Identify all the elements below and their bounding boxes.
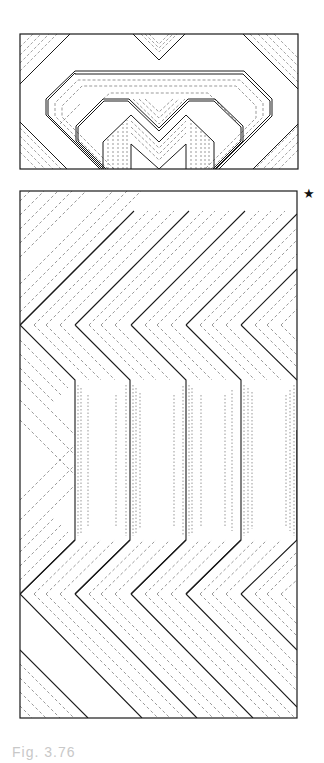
figure-caption: Fig. 3.76 (12, 744, 75, 760)
top-panel-frame (20, 34, 298, 169)
bottom-panel (0, 191, 297, 718)
star-marker-icon: ★ (303, 187, 315, 200)
top-panel (20, 34, 298, 169)
bottom-panel-frame (20, 191, 297, 718)
